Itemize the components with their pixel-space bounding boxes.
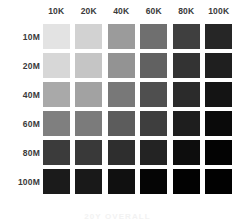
swatch — [75, 82, 102, 107]
cell-20m-10k — [40, 51, 73, 80]
grayscale-matrix-figure: 10K 20K 40K 60K 80K 100K 10M 20M — [0, 0, 235, 224]
swatch — [173, 111, 200, 136]
swatch — [108, 169, 135, 194]
cell-100m-60k — [138, 167, 171, 196]
table-row: 20M — [0, 51, 235, 80]
matrix-body: 10M 20M 40M — [0, 22, 235, 196]
cell-80m-40k — [105, 138, 138, 167]
row-label-60m: 60M — [0, 109, 40, 138]
swatch — [43, 82, 70, 107]
cell-80m-80k — [170, 138, 203, 167]
table-row: 40M — [0, 80, 235, 109]
cell-10m-100k — [203, 22, 236, 51]
cell-40m-100k — [203, 80, 236, 109]
cell-60m-80k — [170, 109, 203, 138]
swatch — [75, 111, 102, 136]
swatch — [140, 53, 167, 78]
table-row: 10M — [0, 22, 235, 51]
swatch — [140, 111, 167, 136]
column-header-10k: 10K — [40, 0, 73, 22]
cell-10m-10k — [40, 22, 73, 51]
swatch — [173, 169, 200, 194]
cell-80m-20k — [73, 138, 106, 167]
cell-80m-10k — [40, 138, 73, 167]
swatch — [173, 53, 200, 78]
swatch — [205, 169, 232, 194]
swatch — [205, 53, 232, 78]
matrix-header-row-group: 10K 20K 40K 60K 80K 100K — [0, 0, 235, 22]
cell-60m-60k — [138, 109, 171, 138]
swatch — [43, 53, 70, 78]
footer-caption: 20Y OVERALL — [0, 212, 235, 221]
column-header-60k: 60K — [138, 0, 171, 22]
swatch — [173, 82, 200, 107]
swatch — [75, 169, 102, 194]
cell-20m-100k — [203, 51, 236, 80]
cell-100m-10k — [40, 167, 73, 196]
cell-20m-20k — [73, 51, 106, 80]
column-header-80k: 80K — [170, 0, 203, 22]
swatch — [140, 24, 167, 49]
swatch — [205, 24, 232, 49]
cell-60m-20k — [73, 109, 106, 138]
cell-40m-40k — [105, 80, 138, 109]
swatch — [75, 53, 102, 78]
row-label-80m: 80M — [0, 138, 40, 167]
swatch — [108, 140, 135, 165]
row-label-20m: 20M — [0, 51, 40, 80]
swatch — [75, 140, 102, 165]
swatch — [75, 24, 102, 49]
cell-80m-100k — [203, 138, 236, 167]
cell-20m-80k — [170, 51, 203, 80]
cell-40m-20k — [73, 80, 106, 109]
corner-spacer — [0, 0, 40, 22]
swatch — [108, 82, 135, 107]
cell-40m-80k — [170, 80, 203, 109]
swatch — [205, 82, 232, 107]
swatch — [108, 111, 135, 136]
swatch — [205, 140, 232, 165]
cell-100m-80k — [170, 167, 203, 196]
swatch — [43, 169, 70, 194]
swatch — [205, 111, 232, 136]
table-row: 80M — [0, 138, 235, 167]
cell-10m-60k — [138, 22, 171, 51]
row-label-100m: 100M — [0, 167, 40, 196]
cell-40m-10k — [40, 80, 73, 109]
row-label-10m: 10M — [0, 22, 40, 51]
swatch — [173, 24, 200, 49]
column-header-row: 10K 20K 40K 60K 80K 100K — [0, 0, 235, 22]
swatch — [173, 140, 200, 165]
matrix-grid: 10K 20K 40K 60K 80K 100K 10M 20M — [0, 0, 235, 196]
cell-60m-40k — [105, 109, 138, 138]
column-header-20k: 20K — [73, 0, 106, 22]
cell-80m-60k — [138, 138, 171, 167]
table-row: 60M — [0, 109, 235, 138]
cell-20m-60k — [138, 51, 171, 80]
cell-60m-100k — [203, 109, 236, 138]
swatch — [140, 169, 167, 194]
cell-40m-60k — [138, 80, 171, 109]
swatch — [43, 140, 70, 165]
cell-100m-40k — [105, 167, 138, 196]
cell-20m-40k — [105, 51, 138, 80]
cell-60m-10k — [40, 109, 73, 138]
cell-10m-20k — [73, 22, 106, 51]
cell-100m-20k — [73, 167, 106, 196]
cell-10m-40k — [105, 22, 138, 51]
swatch — [43, 24, 70, 49]
swatch — [108, 53, 135, 78]
row-label-40m: 40M — [0, 80, 40, 109]
table-row: 100M — [0, 167, 235, 196]
swatch — [140, 140, 167, 165]
swatch — [43, 111, 70, 136]
cell-100m-100k — [203, 167, 236, 196]
cell-10m-80k — [170, 22, 203, 51]
swatch — [140, 82, 167, 107]
column-header-100k: 100K — [203, 0, 236, 22]
column-header-40k: 40K — [105, 0, 138, 22]
swatch — [108, 24, 135, 49]
